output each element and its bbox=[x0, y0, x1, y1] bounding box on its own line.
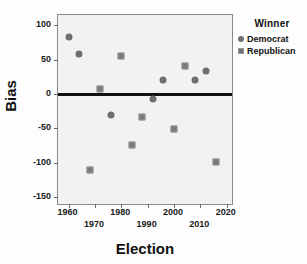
y-axis-tick bbox=[54, 60, 58, 61]
chart-root: Bias Election Winner Democrat Republican… bbox=[0, 0, 307, 264]
legend-square-icon bbox=[238, 48, 244, 54]
plot-frame bbox=[57, 14, 233, 205]
y-axis-tick bbox=[54, 197, 58, 198]
y-axis-tick bbox=[54, 128, 58, 129]
x-axis-tick-label: 2000 bbox=[163, 207, 183, 217]
x-axis-tick bbox=[148, 204, 149, 208]
x-axis-tick bbox=[200, 204, 201, 208]
y-axis-tick-label: 50 bbox=[41, 54, 51, 64]
legend-circle-icon bbox=[238, 36, 244, 42]
y-axis-tick bbox=[54, 94, 58, 95]
y-axis-title-wrap: Bias bbox=[8, 0, 28, 200]
legend-label-democrat: Democrat bbox=[247, 34, 289, 44]
data-point-republican[interactable] bbox=[97, 85, 104, 92]
data-point-democrat[interactable] bbox=[107, 111, 114, 118]
y-axis-tick bbox=[54, 163, 58, 164]
legend-item-republican[interactable]: Republican bbox=[238, 46, 306, 56]
zero-reference-line bbox=[58, 93, 232, 96]
data-point-democrat[interactable] bbox=[65, 33, 72, 40]
y-axis-tick-label: -150 bbox=[33, 191, 51, 201]
data-point-democrat[interactable] bbox=[202, 68, 209, 75]
data-point-republican[interactable] bbox=[86, 166, 93, 173]
y-axis-tick-label: 100 bbox=[36, 19, 51, 29]
data-point-democrat[interactable] bbox=[160, 76, 167, 83]
data-point-democrat[interactable] bbox=[149, 95, 156, 102]
legend-item-democrat[interactable]: Democrat bbox=[238, 34, 306, 44]
y-axis-title: Bias bbox=[2, 80, 19, 112]
x-axis-tick-label: 1990 bbox=[137, 219, 157, 229]
y-axis-tick bbox=[54, 25, 58, 26]
data-point-republican[interactable] bbox=[213, 159, 220, 166]
legend-label-republican: Republican bbox=[247, 46, 296, 56]
x-axis-tick-label: 2020 bbox=[216, 207, 236, 217]
x-axis-title: Election bbox=[57, 240, 233, 257]
data-point-democrat[interactable] bbox=[192, 76, 199, 83]
x-axis-tick bbox=[95, 204, 96, 208]
x-axis-tick-label: 1960 bbox=[58, 207, 78, 217]
legend-title: Winner bbox=[238, 18, 306, 29]
y-axis-tick-label: 0 bbox=[46, 88, 51, 98]
y-axis-tick-label: -100 bbox=[33, 157, 51, 167]
x-axis-tick-label: 1970 bbox=[84, 219, 104, 229]
data-point-republican[interactable] bbox=[171, 126, 178, 133]
x-axis-tick-label: 1980 bbox=[110, 207, 130, 217]
data-point-democrat[interactable] bbox=[76, 51, 83, 58]
plot-area bbox=[58, 15, 232, 204]
data-point-republican[interactable] bbox=[181, 62, 188, 69]
data-point-republican[interactable] bbox=[128, 141, 135, 148]
legend: Winner Democrat Republican bbox=[238, 18, 306, 58]
data-point-republican[interactable] bbox=[118, 52, 125, 59]
x-axis-tick-label: 2010 bbox=[189, 219, 209, 229]
data-point-republican[interactable] bbox=[139, 113, 146, 120]
y-axis-tick-label: -50 bbox=[38, 122, 51, 132]
